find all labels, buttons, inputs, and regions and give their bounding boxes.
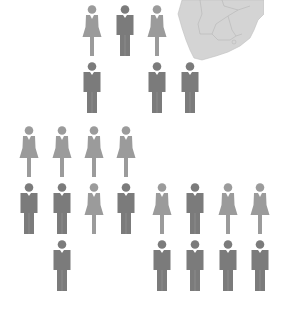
- male-figure-icon: [152, 240, 172, 292]
- female-figure-icon: [84, 126, 104, 178]
- female-figure-icon: [218, 183, 238, 235]
- male-figure-icon: [250, 240, 270, 292]
- female-figure-icon: [116, 126, 136, 178]
- female-figure-icon: [52, 126, 72, 178]
- male-figure-icon: [147, 62, 167, 114]
- male-figure-icon: [185, 183, 205, 235]
- male-figure-icon: [19, 183, 39, 235]
- male-figure-icon: [218, 240, 238, 292]
- male-figure-icon: [180, 62, 200, 114]
- male-figure-icon: [52, 240, 72, 292]
- female-figure-icon: [19, 126, 39, 178]
- female-figure-icon: [152, 183, 172, 235]
- male-figure-icon: [116, 183, 136, 235]
- female-figure-icon: [82, 5, 102, 57]
- southern-africa-map: [172, 0, 264, 62]
- female-figure-icon: [250, 183, 270, 235]
- male-figure-icon: [52, 183, 72, 235]
- male-figure-icon: [82, 62, 102, 114]
- female-figure-icon: [84, 183, 104, 235]
- male-figure-icon: [185, 240, 205, 292]
- male-figure-icon: [115, 5, 135, 57]
- female-figure-icon: [147, 5, 167, 57]
